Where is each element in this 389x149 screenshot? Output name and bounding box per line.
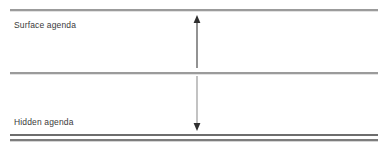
hidden-agenda-label: Hidden agenda	[14, 117, 74, 128]
down-arrow-icon	[188, 76, 206, 132]
horizontal-rule-middle	[10, 72, 378, 74]
surface-agenda-label: Surface agenda	[14, 20, 76, 31]
horizontal-rule-top	[10, 9, 378, 11]
diagram-canvas: Surface agenda Hidden agenda	[0, 0, 389, 149]
up-arrow-icon	[188, 14, 206, 68]
horizontal-rule-bottom-lower	[10, 139, 378, 141]
horizontal-rule-bottom-upper	[10, 134, 378, 136]
horizontal-rule-bottom-group	[10, 134, 378, 142]
